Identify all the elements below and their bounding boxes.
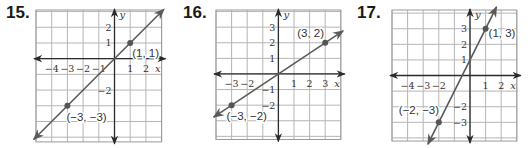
svg-text:2: 2 [105,22,111,33]
point-label: (−2, −3) [399,104,439,116]
coordinate-graph: −4−3−2−11221−2xy(1, 1)(1, 1)(−3, −3)(−3,… [0,0,177,148]
svg-text:1: 1 [105,37,111,48]
svg-text:−3: −3 [60,63,74,74]
svg-text:−2: −2 [453,101,467,112]
svg-text:−2: −2 [76,63,90,74]
x-axis-label: x [334,78,340,89]
svg-text:−2: −2 [261,100,275,111]
problem-15: 15. −4−3−2−11221−2xy(1, 1)(1, 1)(−3, −3)… [0,0,177,148]
svg-text:−4: −4 [45,63,59,74]
svg-text:1: 1 [483,80,489,91]
svg-text:2: 2 [307,78,313,89]
point-label: (−3, −3) [66,111,106,123]
plotted-point [322,40,328,46]
plotted-point [64,103,70,109]
point-label: (1, 3) [489,27,516,39]
svg-text:−2: −2 [432,80,446,91]
svg-text:1: 1 [127,63,133,74]
svg-text:2: 2 [461,39,467,50]
svg-text:1: 1 [291,78,297,89]
svg-text:2: 2 [269,37,275,48]
x-axis-label: x [510,80,516,91]
problem-16: 16. −3−2123321−1−2xy(3, 2)(3, 2)(−3, −2)… [177,0,354,148]
tick-labels: −3−2123321−1−2xy [225,9,341,111]
svg-text:2: 2 [498,80,504,91]
svg-text:2: 2 [143,63,149,74]
svg-text:−3: −3 [225,78,239,89]
coordinate-graph: −4−3−212321−2−3xy(1, 3)(1, 3)(−2, −3)(−2… [354,0,531,148]
svg-text:−2: −2 [240,78,254,89]
point-label: (3, 2) [297,27,324,39]
svg-text:−2: −2 [97,85,111,96]
svg-text:−1: −1 [92,63,106,74]
point-label: (−3, −2) [227,110,267,122]
y-axis-label: y [119,9,126,20]
svg-text:3: 3 [269,22,275,33]
y-axis-label: y [282,9,289,20]
svg-text:−1: −1 [261,84,275,95]
point-label: (1, 1) [132,47,159,59]
svg-text:3: 3 [461,23,467,34]
svg-text:−3: −3 [453,117,467,128]
plotted-point [229,102,235,108]
plotted-point [436,119,442,125]
y-axis-label: y [474,9,481,20]
svg-text:−4: −4 [401,80,415,91]
problem-17: 17. −4−3−212321−2−3xy(1, 3)(1, 3)(−2, −3… [354,0,531,148]
svg-text:1: 1 [461,54,467,65]
coordinate-graph: −3−2123321−1−2xy(3, 2)(3, 2)(−3, −2)(−3,… [177,0,354,148]
svg-text:−3: −3 [416,80,430,91]
svg-text:1: 1 [269,53,275,64]
plotted-point [127,40,133,46]
x-axis-label: x [155,63,161,74]
svg-text:3: 3 [322,78,328,89]
